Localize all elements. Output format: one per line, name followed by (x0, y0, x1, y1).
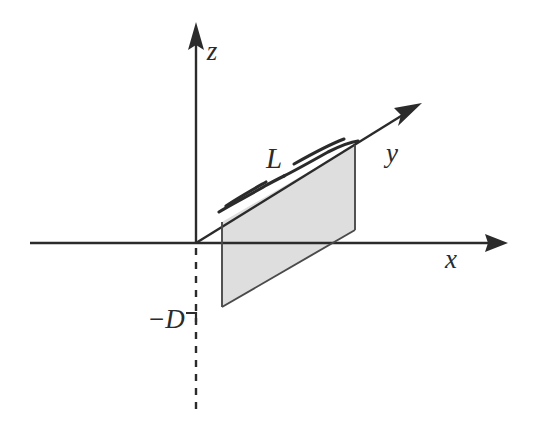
y-axis-label: y (383, 138, 398, 168)
x-axis-label: x (444, 244, 457, 274)
depth-tick-mark (186, 313, 196, 322)
y-axis-arrowhead (394, 103, 422, 126)
x-axis-arrowhead (485, 234, 508, 252)
length-label: L (265, 142, 282, 174)
figure-root: x z y L −D (0, 0, 534, 429)
z-axis-label: z (206, 36, 218, 66)
coordinate-diagram: x z y L −D (0, 0, 534, 429)
depth-label: −D (147, 304, 185, 334)
shaded-plane-region (222, 145, 355, 307)
